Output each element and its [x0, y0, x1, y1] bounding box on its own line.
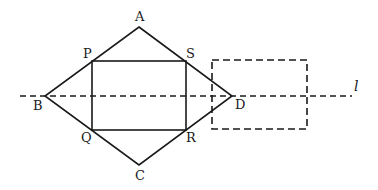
- label-d: D: [235, 97, 245, 112]
- label-b: B: [33, 98, 43, 113]
- label-s: S: [186, 46, 195, 61]
- label-r: R: [186, 130, 197, 145]
- label-a: A: [134, 9, 145, 24]
- geometry-diagram: A B C D P S Q R l: [0, 0, 378, 190]
- dashed-rectangle: [212, 60, 307, 129]
- label-c: C: [135, 168, 145, 183]
- label-q: Q: [81, 130, 92, 145]
- label-p: P: [83, 46, 92, 61]
- label-l: l: [354, 78, 358, 94]
